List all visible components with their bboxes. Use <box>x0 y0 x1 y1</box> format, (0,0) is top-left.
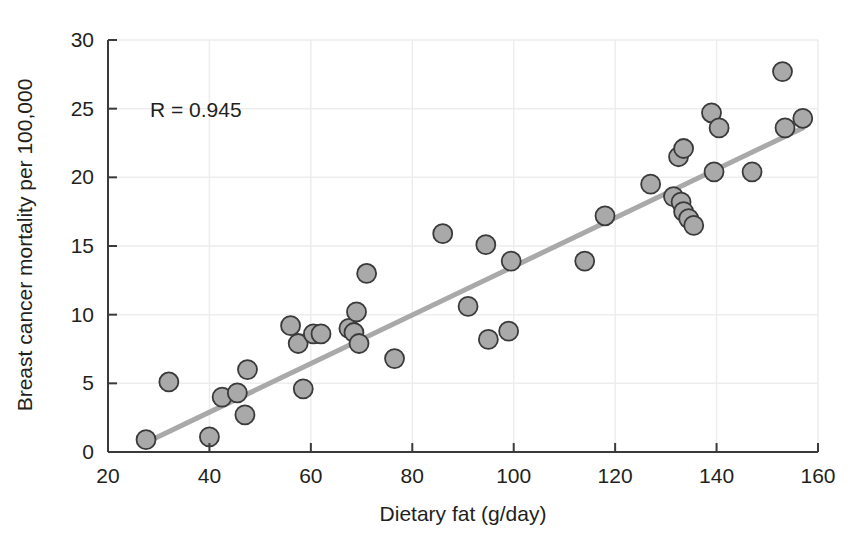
x-tick-label-40: 40 <box>198 464 221 487</box>
data-point-4 <box>228 383 247 402</box>
data-point-36 <box>710 118 729 137</box>
data-point-0 <box>137 430 156 449</box>
data-point-30 <box>674 139 693 158</box>
data-point-39 <box>776 118 795 137</box>
plot-background <box>0 0 861 542</box>
data-point-40 <box>793 109 812 128</box>
y-tick-label-10: 10 <box>71 303 94 326</box>
y-tick-label-20: 20 <box>71 165 94 188</box>
data-point-35 <box>705 162 724 181</box>
data-point-16 <box>357 264 376 283</box>
data-point-26 <box>641 175 660 194</box>
y-axis-title: Breast cancer mortality per 100,000 <box>13 79 36 412</box>
data-point-1 <box>159 372 178 391</box>
data-point-17 <box>385 349 404 368</box>
data-point-19 <box>459 297 478 316</box>
data-point-38 <box>773 62 792 81</box>
data-point-23 <box>502 252 521 271</box>
data-point-5 <box>235 405 254 424</box>
x-tick-label-120: 120 <box>598 464 633 487</box>
data-point-22 <box>499 322 518 341</box>
data-point-24 <box>575 252 594 271</box>
data-point-33 <box>684 216 703 235</box>
data-point-18 <box>433 224 452 243</box>
y-tick-label-15: 15 <box>71 234 94 257</box>
data-point-25 <box>596 206 615 225</box>
y-tick-label-30: 30 <box>71 28 94 51</box>
scatter-plot-canvas: 20406080100120140160051015202530 R = 0.9… <box>0 0 861 542</box>
data-point-21 <box>479 330 498 349</box>
x-tick-label-80: 80 <box>401 464 424 487</box>
data-point-6 <box>238 360 257 379</box>
x-tick-label-160: 160 <box>800 464 835 487</box>
chart-figure: 20406080100120140160051015202530 R = 0.9… <box>0 0 861 542</box>
data-point-11 <box>312 324 331 343</box>
data-point-20 <box>476 235 495 254</box>
x-tick-label-20: 20 <box>96 464 119 487</box>
x-tick-label-140: 140 <box>699 464 734 487</box>
data-point-14 <box>347 302 366 321</box>
x-tick-label-100: 100 <box>496 464 531 487</box>
x-tick-label-60: 60 <box>299 464 322 487</box>
y-tick-label-0: 0 <box>82 440 94 463</box>
x-axis-title: Dietary fat (g/day) <box>380 502 547 525</box>
y-tick-label-25: 25 <box>71 97 94 120</box>
y-tick-label-5: 5 <box>82 371 94 394</box>
data-point-15 <box>350 334 369 353</box>
correlation-annotation: R = 0.945 <box>150 98 242 121</box>
data-point-9 <box>294 379 313 398</box>
data-point-37 <box>743 162 762 181</box>
data-point-7 <box>281 316 300 335</box>
